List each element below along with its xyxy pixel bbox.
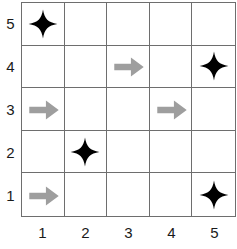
x-axis-tick: 4 bbox=[150, 219, 193, 245]
right-arrow-icon bbox=[28, 180, 58, 210]
y-axis-tick: 1 bbox=[0, 174, 21, 217]
grid-cell-3-1[interactable] bbox=[107, 173, 150, 216]
grid-cell-5-4[interactable] bbox=[192, 46, 235, 89]
grid-cell-3-5[interactable] bbox=[107, 3, 150, 46]
four-pointed-star-icon bbox=[28, 9, 58, 39]
grid-cell-3-2[interactable] bbox=[107, 131, 150, 174]
x-axis-tick: 3 bbox=[107, 219, 150, 245]
four-pointed-star-icon bbox=[70, 137, 100, 167]
grid-cell-2-1[interactable] bbox=[65, 173, 108, 216]
grid-cell-4-5[interactable] bbox=[150, 3, 193, 46]
y-axis-tick: 2 bbox=[0, 131, 21, 174]
grid-cell-1-2[interactable] bbox=[22, 131, 65, 174]
right-arrow-icon bbox=[113, 51, 143, 81]
puzzle-grid-figure: 5 4 3 2 1 1 2 3 4 5 bbox=[0, 0, 237, 249]
x-axis-tick: 1 bbox=[21, 219, 64, 245]
y-axis-tick: 4 bbox=[0, 45, 21, 88]
four-pointed-star-icon bbox=[199, 51, 229, 81]
y-axis-tick: 5 bbox=[0, 2, 21, 45]
grid-cell-5-1[interactable] bbox=[192, 173, 235, 216]
grid-cell-2-3[interactable] bbox=[65, 88, 108, 131]
y-axis-tick: 3 bbox=[0, 88, 21, 131]
x-axis-labels: 1 2 3 4 5 bbox=[21, 219, 236, 245]
grid-cell-5-2[interactable] bbox=[192, 131, 235, 174]
grid-cell-4-2[interactable] bbox=[150, 131, 193, 174]
grid-cell-1-5[interactable] bbox=[22, 3, 65, 46]
x-axis-tick: 5 bbox=[193, 219, 236, 245]
grid-cell-3-3[interactable] bbox=[107, 88, 150, 131]
grid-cell-1-1[interactable] bbox=[22, 173, 65, 216]
grid-cell-4-1[interactable] bbox=[150, 173, 193, 216]
grid-cell-2-2[interactable] bbox=[65, 131, 108, 174]
grid bbox=[21, 2, 236, 217]
grid-cell-1-3[interactable] bbox=[22, 88, 65, 131]
grid-cell-2-5[interactable] bbox=[65, 3, 108, 46]
grid-cell-3-4[interactable] bbox=[107, 46, 150, 89]
grid-cell-4-4[interactable] bbox=[150, 46, 193, 89]
grid-cell-2-4[interactable] bbox=[65, 46, 108, 89]
four-pointed-star-icon bbox=[199, 180, 229, 210]
grid-cell-4-3[interactable] bbox=[150, 88, 193, 131]
right-arrow-icon bbox=[28, 94, 58, 124]
grid-cell-1-4[interactable] bbox=[22, 46, 65, 89]
grid-cell-5-5[interactable] bbox=[192, 3, 235, 46]
x-axis-tick: 2 bbox=[64, 219, 107, 245]
grid-cell-5-3[interactable] bbox=[192, 88, 235, 131]
y-axis-labels: 5 4 3 2 1 bbox=[0, 2, 21, 217]
right-arrow-icon bbox=[156, 94, 186, 124]
